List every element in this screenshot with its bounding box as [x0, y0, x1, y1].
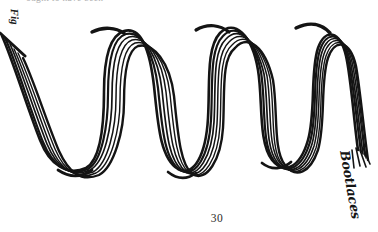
lace-end-cap-left: [0, 33, 25, 56]
lace-bundle-strokes: [0, 24, 370, 178]
lace-stroke-3: [10, 34, 363, 173]
page-number: 30: [211, 212, 224, 224]
scanned-page: ought to have been Fig.: [0, 0, 378, 232]
bootlaces-illustration: [0, 0, 378, 232]
crest-accent-1: [92, 28, 124, 33]
crest-accent-3: [296, 24, 330, 33]
page-folio: 30: [0, 212, 378, 224]
